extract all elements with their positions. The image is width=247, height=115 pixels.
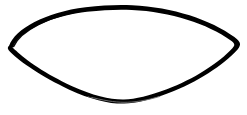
drawing-canvas bbox=[0, 0, 247, 115]
lens-outline-figure bbox=[0, 0, 247, 115]
